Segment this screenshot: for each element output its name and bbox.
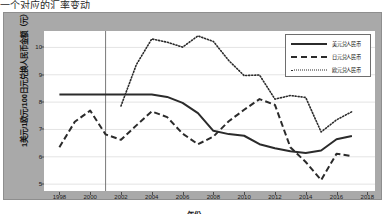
x-tick-mark	[59, 192, 60, 195]
x-tick-mark	[213, 192, 214, 195]
series-line-1	[59, 99, 352, 180]
legend-item-2[interactable]: 欧元兑人民币	[289, 64, 369, 75]
chart-legend: 美元兑人民币日元兑人民币欧元兑人民币	[285, 34, 371, 77]
x-tick-mark	[121, 192, 122, 195]
x-tick-mark	[244, 192, 245, 195]
legend-line-glyph	[291, 69, 327, 70]
legend-item-1[interactable]: 日元兑人民币	[289, 51, 369, 62]
legend-line-glyph	[291, 56, 327, 58]
chart-frame: 1美元/1欧元/100日元兑换人民币金额（元） 5678910 19982000…	[3, 12, 382, 200]
x-tick-mark	[183, 192, 184, 195]
legend-label: 美元兑人民币	[332, 40, 361, 47]
truncated-body-text: 一个对应的汇率变动	[0, 0, 200, 9]
x-tick-mark	[90, 192, 91, 195]
legend-label: 欧元兑人民币	[332, 66, 361, 73]
x-axis-tick-labels: 1998200020022004200620082010201220142016…	[44, 192, 375, 204]
legend-swatch-dashed	[289, 52, 329, 61]
legend-swatch-dotted	[289, 65, 329, 74]
legend-line-glyph	[291, 43, 327, 45]
legend-label: 日元兑人民币	[332, 53, 361, 60]
chart-figure-root: 一个对应的汇率变动 1美元/1欧元/100日元兑换人民币金额（元） 567891…	[0, 0, 385, 214]
x-tick-mark	[152, 192, 153, 195]
x-tick-mark	[275, 192, 276, 195]
x-tick-mark	[367, 192, 368, 195]
x-tick-mark	[306, 192, 307, 195]
legend-swatch-solid	[289, 39, 329, 48]
legend-item-0[interactable]: 美元兑人民币	[289, 38, 369, 49]
x-tick-mark	[337, 192, 338, 195]
series-line-0	[59, 94, 352, 153]
x-axis-title: 年份	[4, 209, 383, 214]
